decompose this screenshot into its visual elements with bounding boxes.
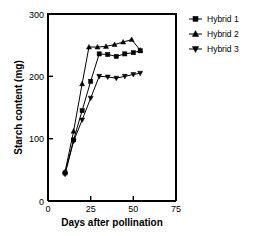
starch-content-line-chart: 0 100 200 300 0 25 50 75 Days after poll… xyxy=(0,0,259,236)
data-point-marker xyxy=(114,76,119,81)
x-axis-title: Days after pollination xyxy=(61,217,163,228)
series-line-2 xyxy=(65,40,140,172)
data-point-marker xyxy=(114,54,118,58)
y-tick-label-100: 100 xyxy=(29,134,44,144)
legend: Hybrid 1 Hybrid 2 Hybrid 3 xyxy=(189,14,239,54)
data-point-marker xyxy=(129,37,134,42)
data-point-marker xyxy=(88,96,93,101)
data-point-marker xyxy=(89,79,93,83)
data-point-marker xyxy=(123,52,127,56)
legend-label-hybrid-2: Hybrid 2 xyxy=(207,29,239,39)
y-tick-label-200: 200 xyxy=(29,72,44,82)
legend-entry-hybrid-3[interactable]: Hybrid 3 xyxy=(189,44,239,54)
legend-label-hybrid-1: Hybrid 1 xyxy=(207,14,239,24)
series-line-3 xyxy=(65,73,140,174)
series-line-1 xyxy=(65,51,140,173)
legend-entry-hybrid-1[interactable]: Hybrid 1 xyxy=(189,14,239,24)
series-hybrid-2 xyxy=(63,37,143,174)
x-tick-label-25: 25 xyxy=(86,204,96,214)
series-layer xyxy=(63,37,143,177)
series-hybrid-1 xyxy=(63,49,142,175)
x-tick-label-0: 0 xyxy=(45,204,50,214)
data-point-marker xyxy=(71,129,76,134)
chart-figure: 0 100 200 300 0 25 50 75 Days after poll… xyxy=(0,0,259,236)
legend-label-hybrid-3: Hybrid 3 xyxy=(207,44,239,54)
data-point-marker xyxy=(80,81,85,86)
y-tick-label-0: 0 xyxy=(39,197,44,207)
legend-marker-square-icon xyxy=(193,16,198,21)
y-tick-label-300: 300 xyxy=(29,10,44,20)
data-point-marker xyxy=(97,52,101,56)
data-point-marker xyxy=(131,51,135,55)
data-point-marker xyxy=(80,118,85,123)
legend-entry-hybrid-2[interactable]: Hybrid 2 xyxy=(189,29,239,39)
x-tick-label-50: 50 xyxy=(128,204,138,214)
y-axis-title: Starch content (mg) xyxy=(13,60,24,154)
x-tick-label-75: 75 xyxy=(171,204,181,214)
data-point-marker xyxy=(80,109,84,113)
data-point-marker xyxy=(106,52,110,56)
